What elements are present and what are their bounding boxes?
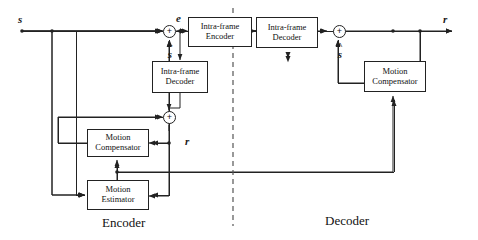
signal-label-encoder-reconstructed-r: r bbox=[185, 136, 189, 147]
signal-label-decoder-output-r: r bbox=[443, 14, 447, 25]
adder-symbol: + bbox=[167, 113, 172, 122]
adder-encoder-reconstruction[interactable]: + bbox=[163, 111, 176, 124]
block-label-line2: Estimator bbox=[101, 195, 134, 205]
block-decoder-intra-frame-decoder[interactable]: Intra-frame Decoder bbox=[256, 17, 318, 48]
signal-label-encoder-prediction-s-tilde: ~ s bbox=[163, 44, 177, 60]
block-encoder-motion-estimator[interactable]: Motion Estimator bbox=[87, 180, 149, 210]
block-label-line2: Decoder bbox=[273, 33, 302, 43]
block-decoder-motion-compensator[interactable]: Motion Compensator bbox=[364, 61, 426, 92]
block-label-line2: Decoder bbox=[166, 77, 195, 87]
block-encoder-intra-frame-decoder[interactable]: Intra-frame Decoder bbox=[152, 61, 208, 93]
signal-base-letter: s bbox=[333, 49, 347, 60]
block-diagram-canvas: Intra-frame Encoder Intra-frame Decoder … bbox=[0, 0, 478, 240]
adder-decoder-reconstruction[interactable]: + bbox=[333, 25, 346, 38]
signal-base-letter: s bbox=[163, 49, 177, 60]
adder-symbol: + bbox=[337, 27, 342, 36]
block-label-line2: Compensator bbox=[372, 77, 417, 87]
block-label-line2: Encoder bbox=[206, 32, 234, 42]
block-label-line2: Compensator bbox=[95, 143, 140, 153]
section-label-encoder: Encoder bbox=[102, 216, 145, 229]
signal-label-prediction-error-e: e bbox=[176, 13, 181, 24]
junction-dots bbox=[20, 29, 422, 174]
signal-label-input-s: s bbox=[18, 14, 22, 25]
adder-symbol: + bbox=[167, 27, 172, 36]
signal-label-decoder-prediction-s-hat: ^ s bbox=[333, 44, 347, 60]
section-label-decoder: Decoder bbox=[325, 214, 369, 227]
adder-encoder-input[interactable]: + bbox=[163, 25, 176, 38]
block-intra-frame-encoder[interactable]: Intra-frame Encoder bbox=[188, 17, 252, 47]
block-encoder-motion-compensator[interactable]: Motion Compensator bbox=[87, 129, 149, 157]
